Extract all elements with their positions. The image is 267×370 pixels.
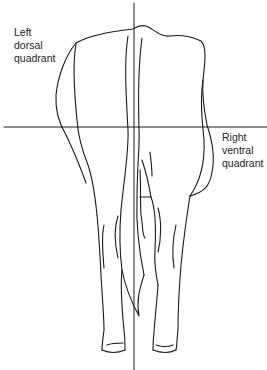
label-left-dorsal-quadrant: Left dorsal quadrant — [14, 26, 55, 65]
right-hoof — [153, 350, 176, 352]
left-leg-outer-hock — [102, 225, 104, 268]
right-hoof-band — [156, 345, 173, 347]
tail-right-line — [137, 38, 144, 275]
right-thigh-line — [190, 80, 204, 196]
udder-flap — [140, 160, 151, 197]
left-hock-line — [115, 216, 118, 258]
right-leg-outer — [176, 196, 190, 350]
left-flank-outline — [56, 43, 86, 183]
label-right-ventral-quadrant: Right ventral quadrant — [222, 131, 263, 170]
udder-left — [140, 170, 145, 238]
udder-right — [151, 197, 158, 285]
left-hoof — [102, 350, 125, 352]
tail-switch — [122, 270, 144, 316]
cow-quadrant-diagram: Left dorsal quadrant Right ventral quadr… — [0, 0, 267, 370]
right-leg-outer-hock — [173, 225, 176, 268]
left-hoof-band — [107, 343, 123, 345]
left-thigh-line — [74, 44, 97, 215]
right-hock-line — [158, 208, 161, 252]
right-leg-inner — [153, 285, 158, 350]
tail-left-line — [120, 36, 128, 270]
body-outline — [76, 26, 213, 196]
udder-line-small — [150, 152, 152, 176]
